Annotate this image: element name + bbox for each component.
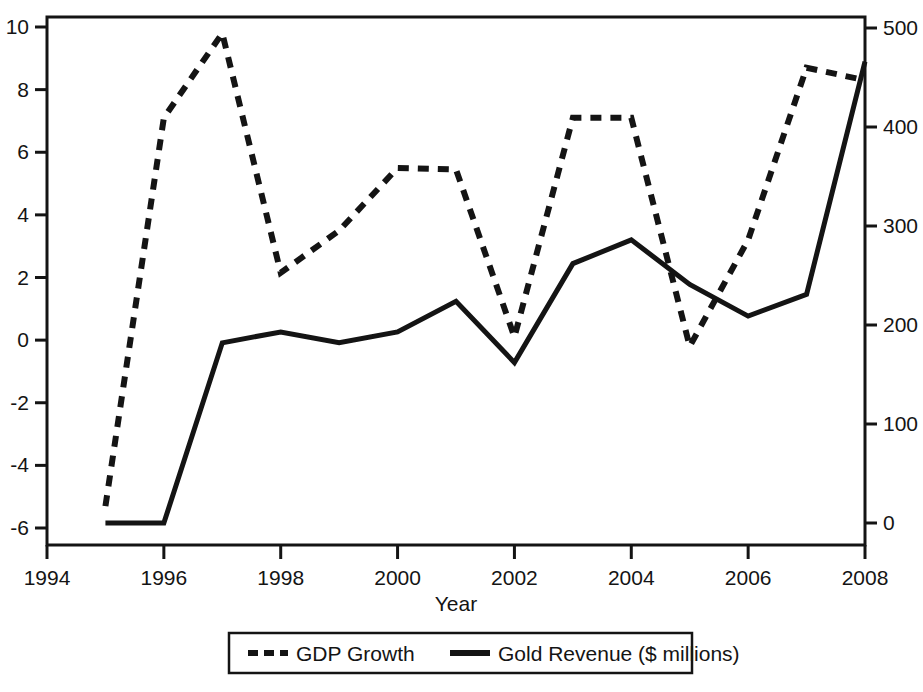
y-axis-right-tick-label: 100 (883, 412, 918, 435)
y-axis-left-tick-label: -2 (10, 391, 29, 414)
x-axis-tick-label: 1994 (24, 566, 71, 589)
x-axis-title: Year (435, 592, 477, 615)
y-axis-left-tick-label: 8 (17, 78, 29, 101)
y-axis-right-tick-label: 300 (883, 214, 918, 237)
legend-label-1: GDP Growth (296, 642, 415, 665)
chart-background (0, 0, 923, 692)
y-axis-left-tick-label: 0 (17, 328, 29, 351)
x-axis-tick-label: 2002 (491, 566, 538, 589)
x-axis-tick-label: 1998 (257, 566, 304, 589)
y-axis-left-tick-label: 6 (17, 140, 29, 163)
x-axis-tick-label: 1996 (140, 566, 187, 589)
x-axis-tick-label: 2008 (842, 566, 889, 589)
y-axis-right-tick-label: 400 (883, 115, 918, 138)
dual-axis-line-chart: 1086420-2-4-6 5004003002001000 199419961… (0, 0, 923, 692)
chart-container: 1086420-2-4-6 5004003002001000 199419961… (0, 0, 923, 692)
x-axis-tick-label: 2000 (374, 566, 421, 589)
y-axis-left-tick-label: -6 (10, 516, 29, 539)
y-axis-right-tick-label: 200 (883, 313, 918, 336)
legend-label-2: Gold Revenue ($ millions) (498, 642, 740, 665)
y-axis-right-tick-label: 500 (883, 16, 918, 39)
y-axis-left-tick-label: 2 (17, 266, 29, 289)
y-axis-right-tick-label: 0 (883, 511, 895, 534)
y-axis-left-tick-label: -4 (10, 453, 29, 476)
y-axis-left-tick-label: 10 (6, 15, 29, 38)
x-axis-tick-label: 2006 (725, 566, 772, 589)
y-axis-left-tick-label: 4 (17, 203, 29, 226)
x-axis-tick-label: 2004 (608, 566, 655, 589)
